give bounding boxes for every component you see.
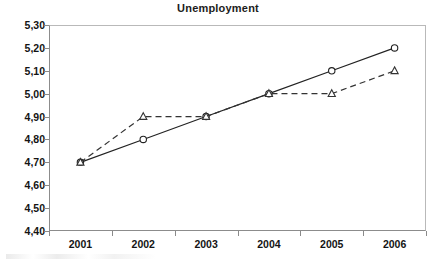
y-tick-label: 4,40 bbox=[1, 226, 45, 236]
data-point-circle bbox=[140, 136, 146, 142]
x-tick-mark bbox=[300, 231, 301, 236]
y-tick-label: 4,90 bbox=[1, 112, 45, 122]
scan-artifact bbox=[6, 254, 156, 259]
data-point-triangle bbox=[391, 67, 398, 74]
y-tick-label: 5,30 bbox=[1, 20, 45, 30]
unemployment-line-chart: Unemployment 5,305,205,105,004,904,804,7… bbox=[0, 0, 436, 263]
plot-area bbox=[49, 25, 426, 231]
x-tick-label: 2004 bbox=[238, 238, 301, 250]
data-point-circle bbox=[329, 68, 335, 74]
x-tick-label: 2006 bbox=[363, 238, 426, 250]
y-tick-label: 4,60 bbox=[1, 180, 45, 190]
x-tick-mark bbox=[49, 231, 50, 236]
chart-title: Unemployment bbox=[0, 2, 436, 14]
data-point-circle bbox=[391, 45, 397, 51]
x-tick-mark bbox=[238, 231, 239, 236]
x-tick-label: 2003 bbox=[175, 238, 238, 250]
y-tick-label: 5,20 bbox=[1, 43, 45, 53]
x-tick-mark bbox=[112, 231, 113, 236]
y-tick-label: 4,80 bbox=[1, 134, 45, 144]
x-tick-mark bbox=[175, 231, 176, 236]
x-tick-label: 2001 bbox=[49, 238, 112, 250]
data-series-layer bbox=[49, 25, 426, 231]
y-tick-label: 4,70 bbox=[1, 157, 45, 167]
x-tick-label: 2005 bbox=[300, 238, 363, 250]
x-tick-label: 2002 bbox=[112, 238, 175, 250]
y-tick-label: 5,10 bbox=[1, 66, 45, 76]
x-tick-mark bbox=[363, 231, 364, 236]
series-line bbox=[80, 71, 394, 163]
y-tick-label: 5,00 bbox=[1, 89, 45, 99]
y-tick-label: 4,50 bbox=[1, 203, 45, 213]
y-axis: 5,305,205,105,004,904,804,704,604,504,40 bbox=[0, 0, 45, 263]
series-triangle bbox=[77, 67, 398, 165]
x-tick-mark bbox=[426, 231, 427, 236]
